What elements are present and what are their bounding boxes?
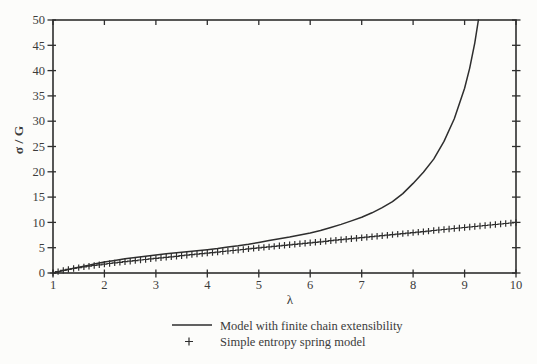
- legend-plus-marker: [185, 338, 193, 346]
- x-tick-label: 7: [359, 278, 365, 292]
- y-tick-label: 10: [33, 216, 46, 230]
- data-series: [50, 20, 519, 276]
- y-tick-label: 5: [39, 241, 45, 255]
- plot-frame: [53, 20, 516, 273]
- plot-border: [53, 20, 516, 273]
- y-tick-label: 15: [33, 190, 46, 204]
- legend-label-finite-chain: Model with finite chain extensibility: [220, 319, 403, 333]
- y-tick-label: 0: [39, 266, 45, 280]
- x-tick-label: 5: [256, 278, 262, 292]
- series-entropy-spring-markers: [50, 219, 519, 276]
- y-tick-label: 50: [33, 13, 46, 27]
- x-tick-label: 6: [307, 278, 313, 292]
- x-tick-label: 10: [510, 278, 523, 292]
- x-tick-label: 2: [101, 278, 107, 292]
- figure: 1234567891005101520253035404550 σ / G λ …: [0, 0, 537, 364]
- y-tick-label: 20: [33, 165, 46, 179]
- chart-canvas: 1234567891005101520253035404550 σ / G λ …: [0, 0, 537, 364]
- axis-ticks: [48, 20, 521, 278]
- x-tick-label: 3: [153, 278, 159, 292]
- x-tick-label: 4: [204, 278, 211, 292]
- y-tick-label: 35: [33, 89, 46, 103]
- y-tick-label: 30: [33, 114, 46, 128]
- x-axis-label: λ: [287, 292, 294, 307]
- x-tick-label: 9: [461, 278, 467, 292]
- y-tick-label: 45: [33, 39, 46, 53]
- legend-label-entropy-spring: Simple entropy spring model: [220, 335, 366, 349]
- legend-item-entropy-spring: Simple entropy spring model: [185, 335, 366, 349]
- y-tick-label: 25: [33, 140, 46, 154]
- axis-tick-labels: 1234567891005101520253035404550: [33, 13, 523, 292]
- legend: Model with finite chain extensibility Si…: [172, 319, 403, 349]
- legend-item-finite-chain: Model with finite chain extensibility: [172, 319, 403, 333]
- y-tick-label: 40: [33, 64, 46, 78]
- y-axis-label: σ / G: [11, 125, 26, 154]
- series-finite-chain-curve: [53, 20, 478, 273]
- x-tick-label: 1: [50, 278, 56, 292]
- x-tick-label: 8: [410, 278, 416, 292]
